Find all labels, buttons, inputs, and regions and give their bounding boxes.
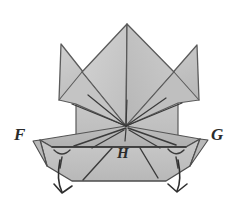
vertex-label-g: G bbox=[211, 126, 223, 143]
figure-drawing bbox=[0, 0, 232, 205]
fold-arrow-left-head bbox=[54, 184, 72, 193]
origami-figure: F H G bbox=[0, 0, 232, 205]
vertex-label-h: H bbox=[117, 146, 129, 161]
vertex-label-f: F bbox=[14, 126, 25, 143]
